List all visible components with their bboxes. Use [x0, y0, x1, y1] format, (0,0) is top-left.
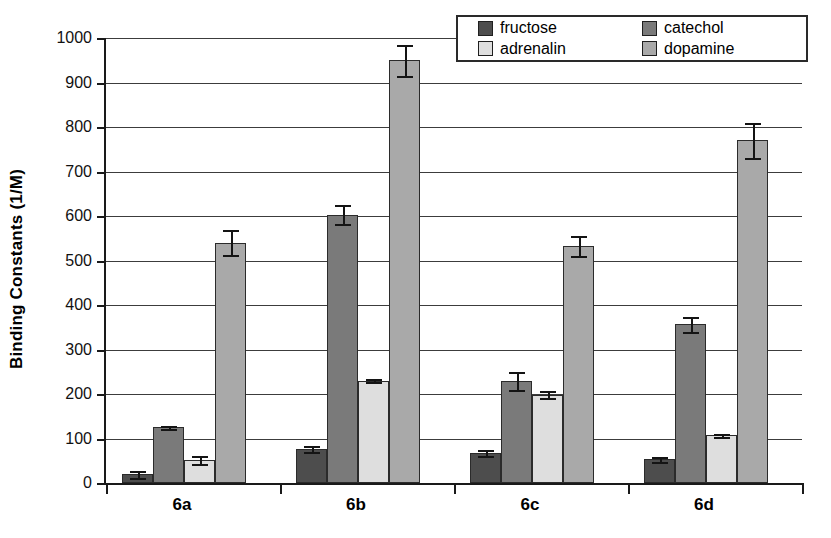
error-bar-cap-lower	[745, 158, 761, 160]
x-axis-tick-end	[802, 483, 804, 494]
error-bar-stem	[517, 372, 519, 390]
legend-label-fructose: fructose	[500, 20, 557, 36]
legend-swatch-icon-dopamine	[642, 41, 657, 56]
legend-label-dopamine: dopamine	[664, 41, 734, 57]
plot-area	[104, 38, 802, 485]
y-axis-tick-mark	[97, 261, 106, 263]
y-axis-tick-mark	[97, 305, 106, 307]
y-axis-tick-label: 300	[65, 341, 92, 359]
x-axis-tick-6a	[106, 483, 108, 494]
error-bar-stem	[231, 230, 233, 255]
bar-6d-catechol	[675, 324, 706, 483]
legend-entry-fructose[interactable]: fructose	[478, 20, 642, 36]
y-axis-tick-label: 500	[65, 252, 92, 270]
bar-6d-dopamine	[737, 140, 768, 483]
error-bar-cap-lower	[223, 255, 239, 257]
bar-group-6c	[470, 38, 594, 483]
y-axis-tick-label: 100	[65, 430, 92, 448]
y-axis-tick-mark	[97, 38, 106, 40]
bar-6c-adrenalin	[532, 395, 563, 483]
error-bar-cap-lower	[714, 437, 730, 439]
error-bar-cap-upper	[571, 236, 587, 238]
y-axis-tick-label: 900	[65, 74, 92, 92]
legend-swatch-icon-fructose	[478, 21, 493, 36]
error-bar-cap-upper	[540, 391, 556, 393]
y-axis-tick-mark	[97, 350, 106, 352]
bar-6b-dopamine	[389, 60, 420, 483]
bar-6a-dopamine	[215, 243, 246, 483]
bar-6a-catechol	[153, 427, 184, 483]
error-bar-stem	[753, 123, 755, 159]
y-axis-tick-label: 800	[65, 118, 92, 136]
y-axis-tick-mark	[97, 127, 106, 129]
error-bar-cap-upper	[509, 372, 525, 374]
y-axis-tick-label: 1000	[56, 29, 92, 47]
y-axis-tick-mark	[97, 83, 106, 85]
y-axis-tick-label: 600	[65, 207, 92, 225]
x-axis-label-6b: 6b	[346, 495, 366, 515]
y-axis-tick-label: 400	[65, 296, 92, 314]
error-bar-cap-upper	[683, 317, 699, 319]
bar-chart: Binding Constants (1/M) 0100200300400500…	[0, 0, 831, 538]
y-axis-tick-mark	[97, 394, 106, 396]
bar-6c-dopamine	[563, 246, 594, 483]
legend-label-adrenalin: adrenalin	[500, 41, 566, 57]
error-bar-cap-lower	[540, 398, 556, 400]
error-bar-cap-upper	[130, 471, 146, 473]
y-axis-tick-label: 200	[65, 385, 92, 403]
error-bar-cap-lower	[192, 464, 208, 466]
x-axis-tick-6d	[628, 483, 630, 494]
y-axis-title: Binding Constants (1/M)	[0, 0, 34, 538]
error-bar-cap-lower	[509, 390, 525, 392]
y-axis-tick-mark	[97, 483, 106, 485]
x-axis-tick-6c	[454, 483, 456, 494]
error-bar-stem	[405, 45, 407, 76]
error-bar-cap-lower	[478, 456, 494, 458]
bar-6b-catechol	[327, 215, 358, 483]
bar-group-6d	[644, 38, 768, 483]
legend-swatch-icon-adrenalin	[478, 41, 493, 56]
legend-entry-dopamine[interactable]: dopamine	[642, 41, 806, 57]
y-axis-tick-label: 0	[83, 474, 92, 492]
bar-6b-fructose	[296, 449, 327, 483]
y-axis-tick-label: 700	[65, 163, 92, 181]
y-axis-tick-mark	[97, 439, 106, 441]
chart-legend: fructosecatecholadrenalindopamine	[456, 15, 808, 62]
error-bar-stem	[343, 205, 345, 225]
bar-group-6b	[296, 38, 420, 483]
error-bar-cap-upper	[161, 426, 177, 428]
error-bar-stem	[579, 236, 581, 256]
error-bar-cap-lower	[304, 452, 320, 454]
error-bar-cap-upper	[304, 446, 320, 448]
error-bar-cap-lower	[130, 478, 146, 480]
error-bar-cap-lower	[366, 382, 382, 384]
error-bar-cap-upper	[478, 450, 494, 452]
error-bar-cap-upper	[397, 45, 413, 47]
bar-6d-adrenalin	[706, 435, 737, 483]
error-bar-cap-lower	[652, 462, 668, 464]
x-axis-tick-6b	[280, 483, 282, 494]
error-bar-cap-upper	[335, 205, 351, 207]
error-bar-cap-upper	[192, 456, 208, 458]
legend-entry-catechol[interactable]: catechol	[642, 20, 806, 36]
bar-group-6a	[122, 38, 246, 483]
error-bar-cap-lower	[397, 76, 413, 78]
error-bar-cap-lower	[683, 332, 699, 334]
error-bar-cap-lower	[161, 429, 177, 431]
error-bar-cap-upper	[714, 434, 730, 436]
error-bar-cap-lower	[335, 224, 351, 226]
y-axis-tick-mark	[97, 216, 106, 218]
legend-swatch-icon-catechol	[642, 21, 657, 36]
x-axis-label-6d: 6d	[694, 495, 714, 515]
bar-6b-adrenalin	[358, 381, 389, 483]
legend-entry-adrenalin[interactable]: adrenalin	[478, 41, 642, 57]
y-axis-tick-mark	[97, 172, 106, 174]
error-bar-stem	[691, 317, 693, 332]
x-axis-label-6c: 6c	[521, 495, 540, 515]
error-bar-cap-upper	[745, 123, 761, 125]
error-bar-cap-upper	[223, 230, 239, 232]
error-bar-cap-upper	[652, 457, 668, 459]
error-bar-cap-lower	[571, 256, 587, 258]
x-axis-label-6a: 6a	[173, 495, 192, 515]
legend-label-catechol: catechol	[664, 20, 724, 36]
